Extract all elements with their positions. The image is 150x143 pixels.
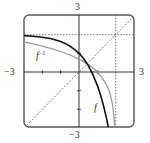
- f-curve-label: f: [94, 103, 97, 113]
- x-axis-right-label: 3: [139, 67, 144, 77]
- y-axis-top-label: 3: [75, 2, 80, 12]
- function-inverse-plot: [0, 0, 150, 143]
- x-axis-left-label: −3: [4, 67, 15, 77]
- y-axis-bottom-label: −3: [69, 130, 80, 140]
- f-inverse-superscript: −1: [39, 50, 45, 56]
- f-inverse-curve-label: f−1: [36, 51, 45, 61]
